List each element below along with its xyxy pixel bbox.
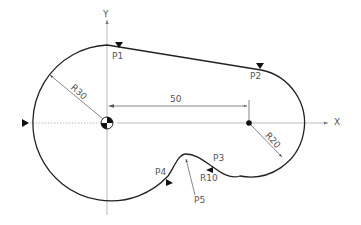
r10-label: R10 — [200, 174, 218, 183]
small-arc-center-icon — [246, 120, 252, 126]
point-p3-label: P3 — [213, 154, 224, 163]
dimension-50-label: 50 — [170, 95, 181, 104]
dimension-50-arrow-left — [108, 104, 114, 107]
point-p1-label: P1 — [112, 52, 123, 61]
origin-icon — [101, 117, 113, 129]
y-axis-label: Y — [103, 10, 109, 19]
point-p5-label: P5 — [194, 196, 205, 205]
point-p2-label: P2 — [250, 72, 261, 81]
start-marker-icon — [22, 119, 29, 127]
p5-leader — [186, 159, 195, 195]
direction-marker-p4-icon — [166, 179, 173, 186]
x-axis-label: X — [334, 118, 340, 127]
point-p4-label: P4 — [155, 168, 166, 177]
direction-marker-p2-icon — [256, 63, 264, 69]
contour-drawing — [0, 0, 361, 225]
